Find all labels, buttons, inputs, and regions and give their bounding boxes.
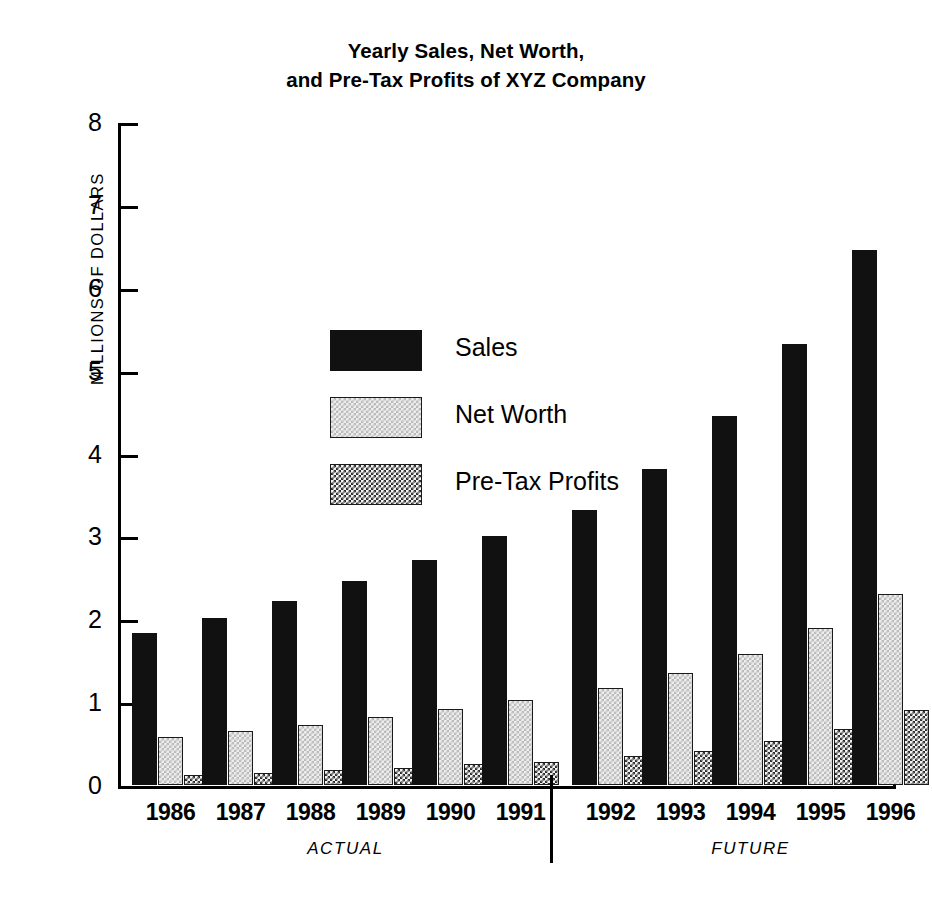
x-axis-label-1989: 1989 xyxy=(341,799,421,826)
x-axis-label-1995: 1995 xyxy=(781,799,861,826)
x-axis-label-1994: 1994 xyxy=(711,799,791,826)
legend-swatch-pretax xyxy=(330,464,422,505)
bar-group xyxy=(482,122,559,785)
actual-future-divider xyxy=(550,775,553,863)
bar-group xyxy=(202,122,279,785)
bar-group xyxy=(712,122,789,785)
bar-group xyxy=(342,122,419,785)
x-axis-label-1986: 1986 xyxy=(131,799,211,826)
bar-sales-1995[interactable] xyxy=(782,344,807,785)
bar-sales-1990[interactable] xyxy=(412,560,437,785)
section-label-future: FUTURE xyxy=(651,839,851,859)
bar-net-worth-1988[interactable] xyxy=(298,725,323,785)
bar-sales-1989[interactable] xyxy=(342,581,367,785)
x-axis-label-1988: 1988 xyxy=(271,799,351,826)
legend-swatch-networth xyxy=(330,397,422,438)
legend-swatch-sales xyxy=(330,330,422,371)
bar-pre-tax-profits-1996[interactable] xyxy=(904,710,929,785)
y-axis-tick-label: 3 xyxy=(62,523,102,550)
bar-sales-1986[interactable] xyxy=(132,633,157,785)
bar-net-worth-1996[interactable] xyxy=(878,594,903,785)
bar-net-worth-1995[interactable] xyxy=(808,628,833,785)
bar-net-worth-1993[interactable] xyxy=(668,673,693,785)
chart-page: Yearly Sales, Net Worth, and Pre-Tax Pro… xyxy=(0,0,932,897)
bar-net-worth-1990[interactable] xyxy=(438,709,463,785)
x-axis-label-1987: 1987 xyxy=(201,799,281,826)
bar-sales-1992[interactable] xyxy=(572,510,597,785)
bar-pre-tax-profits-1991[interactable] xyxy=(534,762,559,785)
y-axis-tick: 0 xyxy=(118,786,138,789)
y-axis-tick-label: 0 xyxy=(62,772,102,799)
legend-label-pretax: Pre-Tax Profits xyxy=(455,467,619,496)
x-axis-line xyxy=(118,786,896,789)
legend-label-sales: Sales xyxy=(455,333,518,362)
bar-group xyxy=(412,122,489,785)
bar-net-worth-1987[interactable] xyxy=(228,731,253,785)
y-axis-tick-label: 1 xyxy=(62,689,102,716)
bar-sales-1991[interactable] xyxy=(482,536,507,785)
bar-sales-1988[interactable] xyxy=(272,601,297,785)
y-axis-title: MILLIONS OF DOLLARS xyxy=(88,65,107,385)
bar-net-worth-1994[interactable] xyxy=(738,654,763,785)
bar-sales-1996[interactable] xyxy=(852,250,877,785)
bar-net-worth-1992[interactable] xyxy=(598,688,623,785)
bar-net-worth-1991[interactable] xyxy=(508,700,533,785)
plot-area: 012345678 MILLIONS OF DOLLARS 1986198719… xyxy=(118,123,896,788)
bar-sales-1993[interactable] xyxy=(642,469,667,785)
bar-group xyxy=(782,122,859,785)
bar-group xyxy=(642,122,719,785)
bar-sales-1987[interactable] xyxy=(202,618,227,785)
chart-title-line-2: and Pre-Tax Profits of XYZ Company xyxy=(0,65,932,94)
y-axis-tick-label: 2 xyxy=(62,606,102,633)
x-axis-label-1992: 1992 xyxy=(571,799,651,826)
chart-title-line-1: Yearly Sales, Net Worth, xyxy=(0,36,932,65)
legend-label-networth: Net Worth xyxy=(455,400,567,429)
section-label-actual: ACTUAL xyxy=(246,839,446,859)
bar-net-worth-1986[interactable] xyxy=(158,737,183,785)
bar-group xyxy=(132,122,209,785)
x-axis-label-1996: 1996 xyxy=(851,799,931,826)
x-axis-label-1993: 1993 xyxy=(641,799,721,826)
bar-group xyxy=(852,122,929,785)
bar-sales-1994[interactable] xyxy=(712,416,737,785)
bar-net-worth-1989[interactable] xyxy=(368,717,393,785)
bar-group xyxy=(272,122,349,785)
bar-group xyxy=(572,122,649,785)
x-axis-label-1991: 1991 xyxy=(481,799,561,826)
page-title: Yearly Sales, Net Worth, and Pre-Tax Pro… xyxy=(0,36,932,94)
y-axis-tick-label: 4 xyxy=(62,441,102,468)
x-axis-label-1990: 1990 xyxy=(411,799,491,826)
